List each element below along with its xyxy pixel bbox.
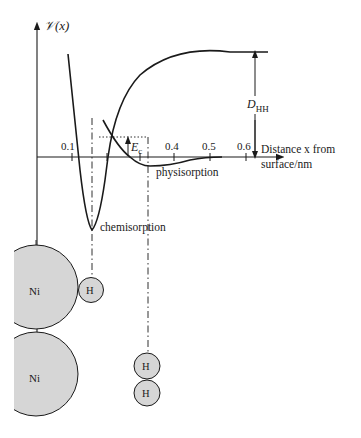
hydrogen-label-molecule-bottom: H	[142, 388, 150, 399]
physisorption-label: physisorption	[156, 166, 219, 179]
x-tick-label-0.5: 0.5	[202, 140, 216, 152]
x-tick-label-0.6: 0.6	[237, 140, 251, 152]
nickel-label-bottom: Ni	[29, 372, 40, 384]
x-tick-label-0.1: 0.1	[61, 140, 75, 152]
x-axis-label-line1: Distance x from	[261, 143, 335, 155]
hydrogen-label-adsorbed: H	[86, 285, 94, 296]
activation-energy-label: Ec	[130, 140, 142, 156]
x-tick-label-0.4: 0.4	[165, 140, 179, 152]
hydrogen-label-molecule-top: H	[142, 361, 150, 372]
adsorption-potential-diagram: 𝒱(x) 0.1 0.4 0.5 0.6 Distance x from sur…	[0, 0, 361, 438]
nickel-label-top: Ni	[29, 285, 40, 297]
chemisorption-label: chemisorption	[100, 221, 166, 234]
x-axis-label-line2: surface/nm	[261, 158, 312, 170]
y-axis-label: 𝒱(x)	[44, 18, 69, 33]
